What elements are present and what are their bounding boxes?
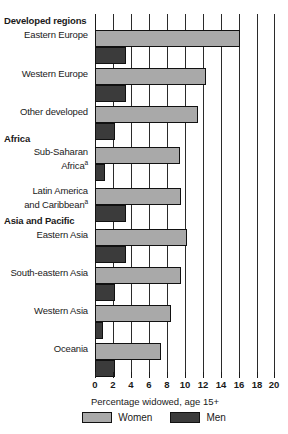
category-label-latin-line1: Latin America <box>32 186 88 197</box>
bar-men-eastern-europe <box>95 47 126 64</box>
tick-mark-12 <box>203 372 204 378</box>
group-label-asia-pacific: Asia and Pacific <box>4 216 74 227</box>
bar-women-eastern-europe <box>95 30 240 47</box>
tick-label-4: 4 <box>128 379 133 390</box>
bar-group-container <box>95 14 275 378</box>
category-label-sub-saharan-line2: Africaa <box>61 158 88 172</box>
tick-label-10: 10 <box>180 379 191 390</box>
category-label-western-europe: Western Europe <box>22 69 88 80</box>
bar-men-eastern-asia <box>95 246 126 263</box>
x-axis-title-text: Percentage widowed, age 15+ <box>69 396 219 407</box>
bar-women-western-asia <box>95 305 171 322</box>
category-label-oceania: Oceania <box>54 344 88 355</box>
footnote-marker-latin: a <box>85 198 88 205</box>
footnote-marker-sub-saharan: a <box>85 159 88 166</box>
bar-women-sub-saharan-africa <box>95 147 180 164</box>
x-axis: 0 2 4 6 8 10 12 14 16 18 20 <box>95 378 275 379</box>
bar-men-other-developed <box>95 123 115 140</box>
legend-label-men: Men <box>206 412 225 423</box>
tick-label-8: 8 <box>164 379 169 390</box>
bar-men-oceania <box>95 360 115 377</box>
bar-women-latin-america-caribbean <box>95 188 181 205</box>
widowhood-bar-chart: Developed regions Eastern Europe Western… <box>0 0 288 434</box>
tick-mark-6 <box>149 372 150 378</box>
latin-caribbean-text: and Caribbean <box>24 199 84 210</box>
bar-men-latin-america-caribbean <box>95 205 126 222</box>
tick-mark-18 <box>257 372 258 378</box>
tick-label-0: 0 <box>92 379 97 390</box>
tick-label-14: 14 <box>216 379 227 390</box>
bar-men-western-asia <box>95 322 103 339</box>
bar-men-western-europe <box>95 85 126 102</box>
tick-mark-14 <box>221 372 222 378</box>
tick-mark-4 <box>131 372 132 378</box>
tick-label-12: 12 <box>198 379 209 390</box>
bar-women-oceania <box>95 343 161 360</box>
tick-label-2: 2 <box>110 379 115 390</box>
category-label-eastern-europe: Eastern Europe <box>24 30 88 41</box>
legend-swatch-women-icon <box>82 412 112 423</box>
category-label-sub-saharan-line1: Sub-Saharan <box>34 147 88 158</box>
group-label-africa: Africa <box>4 134 30 145</box>
category-label-other-developed: Other developed <box>20 107 88 118</box>
legend: Women Men <box>0 412 288 423</box>
category-labels: Developed regions Eastern Europe Western… <box>0 14 92 378</box>
tick-mark-16 <box>239 372 240 378</box>
tick-mark-2 <box>113 372 114 378</box>
bar-men-sub-saharan-africa <box>95 164 105 181</box>
x-axis-title: Percentage widowed, age 15+ <box>0 396 288 407</box>
tick-mark-8 <box>167 372 168 378</box>
category-label-eastern-asia: Eastern Asia <box>36 230 88 241</box>
bar-women-south-eastern-asia <box>95 267 181 284</box>
legend-item-men: Men <box>170 412 225 423</box>
sub-saharan-africa-text: Africa <box>61 160 84 171</box>
tick-mark-0 <box>95 372 96 378</box>
tick-mark-20 <box>274 372 275 378</box>
bar-women-other-developed <box>95 106 198 123</box>
category-label-western-asia: Western Asia <box>34 306 88 317</box>
tick-label-6: 6 <box>146 379 151 390</box>
group-label-developed-regions: Developed regions <box>4 16 86 27</box>
tick-label-20: 20 <box>269 379 280 390</box>
legend-swatch-men-icon <box>170 412 200 423</box>
legend-label-women: Women <box>118 412 152 423</box>
bar-women-eastern-asia <box>95 229 187 246</box>
category-label-south-eastern-asia: South-eastern Asia <box>10 268 88 279</box>
category-label-latin-line2: and Caribbeana <box>24 197 88 211</box>
tick-mark-10 <box>185 372 186 378</box>
plot-area <box>95 14 275 378</box>
legend-item-women: Women <box>82 412 152 423</box>
bar-men-south-eastern-asia <box>95 284 115 301</box>
tick-label-16: 16 <box>234 379 245 390</box>
tick-label-18: 18 <box>252 379 263 390</box>
bar-women-western-europe <box>95 68 206 85</box>
